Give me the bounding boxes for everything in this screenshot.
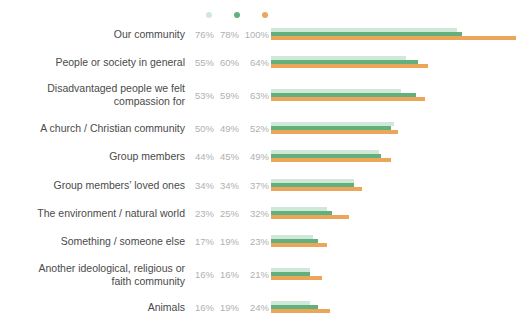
- chart-value-label: 32%: [240, 208, 269, 219]
- chart-row-bars: [271, 178, 531, 193]
- chart-row: Group members’ loved ones34%34%37%: [0, 171, 531, 199]
- chart-bar: [271, 130, 398, 134]
- chart-value-label: 53%: [190, 90, 214, 101]
- chart-title: [0, 0, 531, 2]
- chart-row-bars: [271, 27, 531, 42]
- chart-value-label: 23%: [190, 208, 214, 219]
- chart-bar: [271, 215, 349, 219]
- legend-swatch-series-3: [262, 12, 268, 18]
- chart-bar: [271, 64, 428, 68]
- chart-value-label: 100%: [240, 29, 269, 40]
- chart-bar: [271, 276, 322, 280]
- chart-row-bars: [271, 267, 531, 282]
- chart-row-values: 55%60%64%: [190, 57, 271, 68]
- chart-value-label: 25%: [215, 208, 239, 219]
- chart-rows: Our community76%78%100%People or society…: [0, 20, 531, 317]
- chart-row-label: The environment / natural world: [0, 207, 190, 220]
- chart-row-label: A church / Christian community: [0, 122, 190, 135]
- chart-value-label: 49%: [240, 151, 269, 162]
- chart-bar: [271, 187, 362, 191]
- chart-row-label: Group members: [0, 150, 190, 163]
- chart-row: Disadvantaged people we felt compassion …: [0, 76, 531, 114]
- chart-value-label: 78%: [215, 29, 239, 40]
- chart-bar: [271, 97, 425, 101]
- chart-value-label: 49%: [215, 123, 239, 134]
- chart-row-bars: [271, 234, 531, 249]
- chart-row-label: Something / someone else: [0, 235, 190, 248]
- chart-value-label: 16%: [215, 269, 239, 280]
- chart-bar: [271, 36, 516, 40]
- chart-row-values: 16%16%21%: [190, 269, 271, 280]
- chart-bar: [271, 158, 391, 162]
- chart-value-label: 34%: [190, 180, 214, 191]
- chart-value-label: 34%: [215, 180, 239, 191]
- chart-value-label: 16%: [190, 269, 214, 280]
- chart-footer-note: [0, 304, 531, 312]
- chart-value-label: 59%: [215, 90, 239, 101]
- chart-row-label: People or society in general: [0, 56, 190, 69]
- chart-row: Another ideological, religious or faith …: [0, 256, 531, 294]
- chart-value-label: 37%: [240, 180, 269, 191]
- chart-row-bars: [271, 206, 531, 221]
- chart-value-label: 64%: [240, 57, 269, 68]
- chart-row: The environment / natural world23%25%32%: [0, 199, 531, 227]
- chart-row-bars: [271, 55, 531, 70]
- chart-row-label: Our community: [0, 28, 190, 41]
- chart-row-values: 44%45%49%: [190, 151, 271, 162]
- chart-row: Group members44%45%49%: [0, 143, 531, 171]
- chart-row-label: Group members’ loved ones: [0, 179, 190, 192]
- chart-row-bars: [271, 149, 531, 164]
- chart-value-label: 45%: [215, 151, 239, 162]
- chart-value-label: 52%: [240, 123, 269, 134]
- chart-row-label: Another ideological, religious or faith …: [0, 262, 190, 288]
- chart-value-label: 63%: [240, 90, 269, 101]
- chart-value-label: 23%: [240, 236, 269, 247]
- chart-row: People or society in general55%60%64%: [0, 48, 531, 76]
- legend-swatch-series-1: [206, 12, 212, 18]
- chart-row-bars: [271, 121, 531, 136]
- chart-bar: [271, 243, 327, 247]
- chart-row-values: 50%49%52%: [190, 123, 271, 134]
- chart-row-values: 76%78%100%: [190, 29, 271, 40]
- chart-row-label: Disadvantaged people we felt compassion …: [0, 82, 190, 108]
- chart-row-values: 53%59%63%: [190, 90, 271, 101]
- chart-value-label: 17%: [190, 236, 214, 247]
- chart-row-values: 34%34%37%: [190, 180, 271, 191]
- legend-swatch-series-2: [234, 12, 240, 18]
- chart-value-label: 21%: [240, 269, 269, 280]
- chart-row: A church / Christian community50%49%52%: [0, 115, 531, 143]
- chart-value-label: 55%: [190, 57, 214, 68]
- chart-value-label: 44%: [190, 151, 214, 162]
- chart-row-bars: [271, 88, 531, 103]
- chart-row-values: 17%19%23%: [190, 236, 271, 247]
- chart-value-label: 50%: [190, 123, 214, 134]
- chart-value-label: 19%: [215, 236, 239, 247]
- chart-row: Our community76%78%100%: [0, 20, 531, 48]
- chart-row: Something / someone else17%19%23%: [0, 227, 531, 255]
- chart-value-label: 76%: [190, 29, 214, 40]
- chart-value-label: 60%: [215, 57, 239, 68]
- chart-row-values: 23%25%32%: [190, 208, 271, 219]
